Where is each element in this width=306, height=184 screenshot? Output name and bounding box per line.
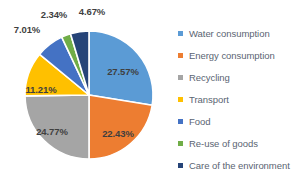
legend-item-label: Energy consumption: [189, 50, 275, 61]
pie-slice-label: 2.34%: [41, 9, 67, 20]
pie-plot-area: 27.57%22.43%24.77%11.21%7.01%2.34%4.67%: [0, 0, 176, 184]
legend-item-label: Care of the environment: [189, 160, 290, 171]
pie-slice[interactable]: [89, 95, 152, 159]
pie-chart-figure: 27.57%22.43%24.77%11.21%7.01%2.34%4.67% …: [0, 0, 306, 184]
legend-swatch-icon: [178, 97, 183, 102]
legend-item[interactable]: Transport: [176, 88, 306, 110]
legend-swatch-icon: [178, 75, 183, 80]
chart-legend: Water consumptionEnergy consumptionRecyc…: [176, 22, 306, 176]
legend-item[interactable]: Energy consumption: [176, 44, 306, 66]
pie-slice-group: [25, 31, 153, 159]
legend-item[interactable]: Food: [176, 110, 306, 132]
legend-item-label: Water consumption: [189, 28, 270, 39]
legend-item-label: Food: [189, 116, 210, 127]
legend-swatch-icon: [178, 163, 183, 168]
pie-slice-label: 7.01%: [14, 24, 40, 35]
legend-swatch-icon: [178, 141, 183, 146]
pie-slice[interactable]: [89, 31, 153, 105]
legend-item-label: Transport: [189, 94, 229, 105]
legend-item[interactable]: Re-use of goods: [176, 132, 306, 154]
legend-item[interactable]: Recycling: [176, 66, 306, 88]
legend-item[interactable]: Care of the environment: [176, 154, 306, 176]
legend-swatch-icon: [178, 119, 183, 124]
pie-slice[interactable]: [25, 95, 89, 159]
legend-swatch-icon: [178, 53, 183, 58]
legend-item[interactable]: Water consumption: [176, 22, 306, 44]
legend-item-label: Re-use of goods: [189, 138, 258, 149]
legend-swatch-icon: [178, 31, 183, 36]
pie-slice-label: 4.67%: [79, 6, 105, 17]
legend-item-label: Recycling: [189, 72, 230, 83]
